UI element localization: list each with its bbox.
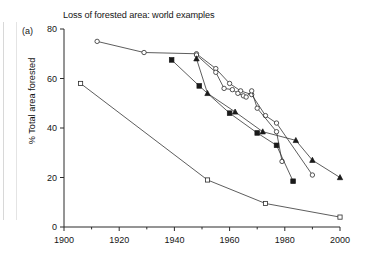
x-tick-label: 1920 <box>109 235 129 245</box>
marker-open-circle <box>263 113 267 117</box>
marker-open-circle <box>249 89 253 93</box>
marker-open-circle <box>274 130 278 134</box>
x-tick-label: 1980 <box>275 235 295 245</box>
marker-filled-square <box>197 84 202 89</box>
y-tick-label: 80 <box>47 24 57 34</box>
x-tick-label: 1960 <box>220 235 240 245</box>
axis-lines <box>64 29 340 227</box>
x-tick-label: 2000 <box>330 235 350 245</box>
marker-open-circle <box>227 81 231 85</box>
x-tick-label: 1940 <box>164 235 184 245</box>
series-line-filled-square <box>172 60 293 181</box>
marker-open-square <box>78 81 82 85</box>
marker-open-circle <box>142 50 146 54</box>
marker-open-circle <box>230 87 234 91</box>
marker-filled-square <box>169 58 174 63</box>
figure-panel: (a) Loss of forested area: world example… <box>0 0 370 269</box>
marker-open-circle <box>222 86 226 90</box>
marker-filled-triangle <box>232 109 237 114</box>
series-line-open-circle-upper <box>97 41 312 175</box>
chart-plot-area: 020406080190019201940196019802000 <box>0 0 370 269</box>
marker-open-square <box>338 215 342 219</box>
series-line-open-square-lower <box>81 83 340 217</box>
marker-filled-square <box>291 179 296 184</box>
marker-open-circle <box>244 95 248 99</box>
marker-filled-square <box>227 111 232 116</box>
marker-open-circle <box>310 173 314 177</box>
x-tick-label: 1900 <box>54 235 74 245</box>
marker-filled-square <box>274 143 279 148</box>
y-tick-label: 20 <box>47 173 57 183</box>
marker-open-circle <box>274 121 278 125</box>
marker-open-square <box>205 178 209 182</box>
series-line-open-circle-zigzag <box>196 55 282 161</box>
y-tick-label: 60 <box>47 74 57 84</box>
marker-filled-triangle <box>260 129 265 134</box>
marker-open-circle <box>95 39 99 43</box>
marker-open-circle <box>236 91 240 95</box>
marker-open-circle <box>255 106 259 110</box>
marker-open-square <box>263 201 267 205</box>
y-tick-label: 0 <box>52 222 57 232</box>
marker-filled-triangle <box>337 175 342 180</box>
y-tick-label: 40 <box>47 123 57 133</box>
marker-filled-square <box>255 131 260 136</box>
marker-open-circle <box>214 70 218 74</box>
